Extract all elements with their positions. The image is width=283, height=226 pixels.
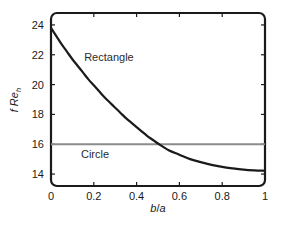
y-tick-label-1: 16 [32,138,44,150]
x-tick-label-4: 0.8 [215,190,230,202]
y-tick-label-2: 18 [32,108,44,120]
x-tick-label-1: 0.2 [86,190,101,202]
x-tick-label-0: 0 [48,190,54,202]
x-tick-label-5: 1 [262,190,268,202]
y-axis-title-subscript: h [14,87,23,92]
x-axis-title-denominator: a [160,202,166,214]
x-axis-title: b/a [150,202,165,214]
y-tick-label-4: 22 [32,49,44,61]
chart-plot: 00.20.40.60.81 141618202224 Rectangle Ci… [0,0,283,226]
x-tick-label-2: 0.4 [129,190,144,202]
annotation-circle: Circle [81,148,109,160]
annotation-rectangle: Rectangle [84,51,134,63]
y-tick-label-5: 24 [32,19,44,31]
y-tick-label-3: 20 [32,79,44,91]
y-tick-label-0: 14 [32,168,44,180]
y-axis-title-main: f Re [8,92,20,112]
figure-container: 00.20.40.60.81 141618202224 Rectangle Ci… [0,0,283,226]
x-tick-label-3: 0.6 [172,190,187,202]
